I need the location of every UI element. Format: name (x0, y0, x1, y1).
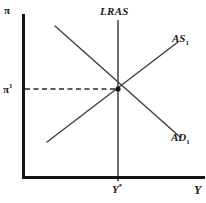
y-axis-title: π (4, 5, 10, 16)
equilibrium-point-marker (115, 86, 120, 91)
x-axis-title: Y (194, 184, 201, 196)
ad1-curve-label: AD1 (171, 132, 190, 146)
lras-curve-label: LRAS (100, 6, 129, 17)
diagram-canvas (0, 0, 206, 203)
as1-curve-label: AS1 (172, 33, 189, 47)
ad1-label-base: AD (171, 131, 186, 143)
x-axis-tick-label-potential-output: Y* (112, 183, 122, 195)
pi-level-superscript: 1 (9, 82, 12, 89)
y-star-superscript: * (119, 182, 122, 189)
ad1-label-subscript: 1 (186, 138, 189, 145)
as1-label-base: AS (172, 32, 185, 44)
y-star-base: Y (112, 183, 119, 195)
chart-background (0, 0, 206, 203)
y-axis-tick-label-price-level: π1 (3, 83, 12, 95)
as1-label-subscript: 1 (185, 39, 188, 46)
ad-as-diagram: π π1 LRAS AS1 AD1 Y* Y (0, 0, 206, 203)
